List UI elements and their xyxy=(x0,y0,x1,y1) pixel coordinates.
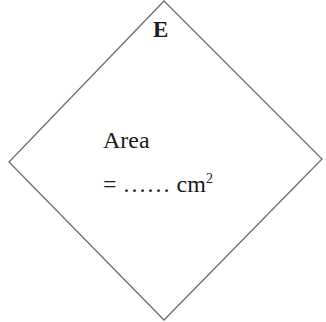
shape-label: E xyxy=(153,17,168,43)
area-answer: = …… cm2 xyxy=(103,171,213,198)
area-unit: cm xyxy=(177,171,206,197)
rhombus-outline xyxy=(9,1,322,320)
area-label: Area xyxy=(103,127,150,154)
area-unit-exponent: 2 xyxy=(206,171,213,186)
area-prefix: = xyxy=(103,171,123,197)
area-blank: …… xyxy=(123,171,171,197)
rhombus-shape xyxy=(0,0,326,322)
